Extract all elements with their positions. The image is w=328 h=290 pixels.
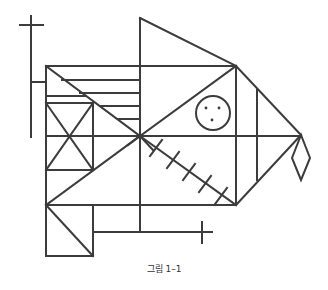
top-fin	[128, 18, 236, 232]
eye-dots	[205, 107, 221, 122]
top-left-cross	[20, 16, 46, 137]
figure-caption: 그림 1–1	[0, 262, 328, 275]
eye-circle	[196, 96, 230, 130]
fish-geometric-diagram	[0, 0, 328, 290]
hatched-diagonal	[140, 136, 236, 205]
